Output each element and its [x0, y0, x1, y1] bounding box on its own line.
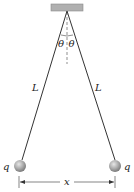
- charge-left-label: q: [3, 161, 9, 172]
- theta-right-label: θ: [69, 38, 75, 49]
- angle-arc: [61, 35, 73, 36]
- arrow-right-icon: [109, 180, 114, 184]
- charge-right-label: q: [124, 161, 130, 172]
- string-left: [22, 11, 67, 160]
- length-left-label: L: [31, 82, 39, 93]
- arrow-left-icon: [20, 180, 25, 184]
- sphere-right: [109, 160, 121, 172]
- length-right-label: L: [94, 82, 102, 93]
- pendulum-diagram: θ θ L L q q x: [0, 0, 134, 192]
- sphere-left: [14, 160, 26, 172]
- theta-left-label: θ: [58, 38, 64, 49]
- ceiling-support: [51, 4, 83, 11]
- separation-label: x: [64, 176, 70, 187]
- string-right: [67, 11, 115, 160]
